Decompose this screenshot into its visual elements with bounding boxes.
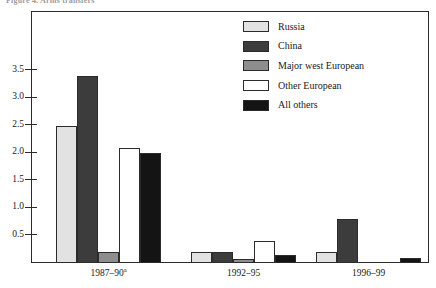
- bar: [56, 126, 77, 264]
- bar: [140, 153, 161, 263]
- legend-item-label: Major west European: [278, 61, 364, 71]
- bar: [191, 252, 212, 263]
- y-axis-tick: [25, 69, 37, 70]
- legend-item[interactable]: Russia: [243, 17, 423, 37]
- x-axis-group-label: 1996–99: [319, 268, 419, 278]
- bar: [77, 76, 98, 263]
- legend-item-label: Russia: [278, 22, 305, 32]
- bar: [233, 259, 254, 263]
- y-axis-tick-label: 3.5: [2, 65, 24, 75]
- chart-legend: RussiaChinaMajor west EuropeanOther Euro…: [243, 17, 423, 115]
- legend-swatch-icon: [243, 41, 269, 52]
- legend-item-label: Other European: [278, 81, 342, 91]
- y-axis-tick-label: 0.5: [2, 230, 24, 240]
- bar: [212, 252, 233, 263]
- y-axis-tick: [25, 234, 37, 235]
- y-axis-tick: [25, 179, 37, 180]
- legend-swatch-icon: [243, 60, 269, 71]
- chart-figure: Figure 4. Arms transfers 0.51.01.52.02.5…: [0, 0, 436, 288]
- legend-item-label: China: [278, 41, 302, 51]
- bar: [119, 148, 140, 264]
- legend-item[interactable]: Other European: [243, 76, 423, 96]
- x-axis-footnote-marker: a: [124, 266, 127, 273]
- legend-item[interactable]: All others: [243, 95, 423, 115]
- bar: [98, 252, 119, 263]
- x-axis-group-label: 1987–90a: [59, 268, 159, 278]
- y-axis-tick: [25, 124, 37, 125]
- y-axis: 0.51.01.52.02.53.03.5: [0, 0, 24, 288]
- y-axis-tick-label: 2.0: [2, 147, 24, 157]
- y-axis-tick-label: 2.5: [2, 120, 24, 130]
- legend-swatch-icon: [243, 80, 269, 91]
- y-axis-tick-label: 3.0: [2, 92, 24, 102]
- bar: [275, 255, 296, 263]
- y-axis-tick-label: 1.0: [2, 202, 24, 212]
- bar: [337, 219, 358, 263]
- legend-swatch-icon: [243, 100, 269, 111]
- legend-item[interactable]: China: [243, 37, 423, 57]
- bar: [400, 258, 421, 264]
- y-axis-tick: [25, 207, 37, 208]
- bar: [254, 241, 275, 263]
- y-axis-tick: [25, 97, 37, 98]
- y-axis-tick: [25, 152, 37, 153]
- legend-item[interactable]: Major west European: [243, 56, 423, 76]
- legend-item-label: All others: [278, 100, 318, 110]
- bar: [316, 252, 337, 263]
- legend-swatch-icon: [243, 21, 269, 32]
- x-axis-group-label: 1992–95: [194, 268, 294, 278]
- y-axis-tick-label: 1.5: [2, 175, 24, 185]
